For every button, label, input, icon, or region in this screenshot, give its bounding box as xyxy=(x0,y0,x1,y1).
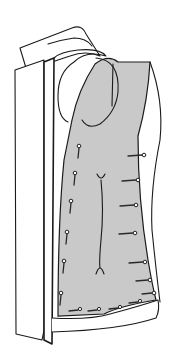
right-side-edge xyxy=(150,62,161,302)
figure-canvas xyxy=(0,0,172,350)
waistcoat-diagram xyxy=(0,0,172,350)
collar-back xyxy=(20,27,100,68)
lining-panel xyxy=(58,58,156,316)
left-front-panel xyxy=(15,60,44,340)
lapel-panel xyxy=(44,58,54,344)
